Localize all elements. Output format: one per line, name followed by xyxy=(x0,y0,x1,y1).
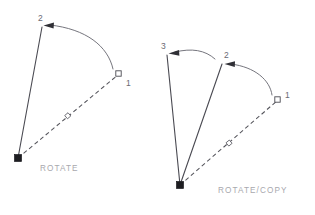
rotate-midpoint-marker xyxy=(65,113,71,119)
rotate-copy-label-2: 2 xyxy=(224,50,229,60)
diagram-canvas: 2 1 ROTATE 2 xyxy=(0,0,315,215)
rotate-copy-label-3: 3 xyxy=(161,41,166,51)
panel-rotate-copy: 2 3 1 ROTATE/COPY xyxy=(161,41,290,195)
rotate-copy-base-point-marker xyxy=(177,182,184,189)
rotate-rotation-arc xyxy=(50,25,113,69)
rotate-copy-caption: ROTATE/COPY xyxy=(218,186,288,195)
rotate-label-1: 1 xyxy=(126,78,131,88)
rotate-copy-arc1-arrowhead-icon xyxy=(225,61,236,67)
rotate-copy-rotation-arc-2 xyxy=(175,50,215,59)
rotate-copy-arc2-arrowhead-icon xyxy=(169,50,180,56)
rotate-copy-label-1: 1 xyxy=(285,90,290,100)
rotate-label-2: 2 xyxy=(38,13,43,23)
rotate-reference-point-marker xyxy=(116,71,121,76)
rotate-base-point-marker xyxy=(15,155,22,162)
rotate-caption: ROTATE xyxy=(40,164,79,173)
rotate-copy-rotation-arc-1 xyxy=(231,64,272,95)
panel-rotate: 2 1 ROTATE xyxy=(15,13,132,173)
rotate-diagram-svg: 2 1 ROTATE 2 xyxy=(0,0,315,215)
rotate-copy-ray-2 xyxy=(180,64,222,185)
rotate-arc-arrowhead-icon xyxy=(44,23,55,29)
rotate-copy-ray-3 xyxy=(167,55,180,185)
rotate-copy-reference-point-marker xyxy=(275,97,280,102)
rotate-rotated-ray xyxy=(18,27,42,158)
